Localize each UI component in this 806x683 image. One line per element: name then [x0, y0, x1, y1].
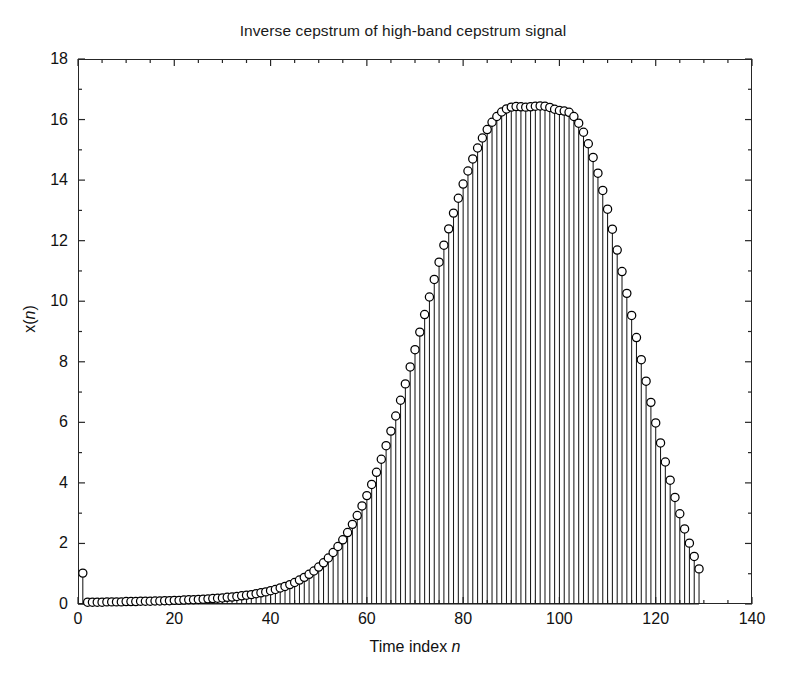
x-axis-label-text: Time index — [369, 638, 451, 655]
data-point-marker — [647, 398, 655, 406]
data-point-marker — [575, 119, 583, 127]
y-tick-label: 4 — [59, 474, 68, 492]
data-point-marker — [579, 128, 587, 136]
data-point-marker — [603, 205, 611, 213]
data-point-marker — [685, 539, 693, 547]
x-tick-label: 80 — [454, 610, 472, 628]
data-point-marker — [473, 144, 481, 152]
data-point-marker — [348, 520, 356, 528]
y-tick-label: 16 — [50, 111, 68, 129]
data-point-marker — [344, 528, 352, 536]
data-point-marker — [637, 356, 645, 364]
data-point-marker — [632, 333, 640, 341]
x-axis-label: Time index n — [78, 638, 752, 656]
x-tick-label: 0 — [74, 610, 83, 628]
data-point-marker — [435, 258, 443, 266]
x-tick-label: 40 — [262, 610, 280, 628]
data-point-marker — [666, 476, 674, 484]
y-tick-label: 0 — [59, 595, 68, 613]
x-axis-label-variable: n — [452, 638, 461, 655]
y-tick-label: 14 — [50, 171, 68, 189]
data-point-marker — [671, 493, 679, 501]
data-point-marker — [411, 346, 419, 354]
data-point-marker — [690, 552, 698, 560]
data-point-marker — [392, 412, 400, 420]
data-point-marker — [353, 511, 361, 519]
data-point-marker — [421, 310, 429, 318]
y-tick-label: 6 — [59, 413, 68, 431]
data-point-marker — [454, 194, 462, 202]
data-point-marker — [425, 293, 433, 301]
data-point-marker — [416, 328, 424, 336]
data-point-marker — [363, 492, 371, 500]
data-point-marker — [464, 167, 472, 175]
data-point-marker — [642, 377, 650, 385]
data-point-marker — [358, 502, 366, 510]
data-point-marker — [377, 455, 385, 463]
y-axis-label-variable: n — [21, 311, 38, 320]
y-tick-label: 2 — [59, 534, 68, 552]
data-point-marker — [584, 140, 592, 148]
x-tick-label: 20 — [165, 610, 183, 628]
data-point-marker — [478, 134, 486, 142]
data-point-marker — [368, 480, 376, 488]
data-point-marker — [623, 289, 631, 297]
stem-plot-svg — [78, 59, 752, 604]
data-point-marker — [339, 536, 347, 544]
x-axis-tick-labels: 020406080100120140 — [78, 610, 752, 634]
data-point-marker — [372, 468, 380, 476]
data-point-marker — [695, 565, 703, 573]
data-point-marker — [406, 363, 414, 371]
plot-axes-area — [78, 59, 752, 604]
y-axis-label-suffix: ) — [21, 305, 38, 310]
data-point-marker — [656, 439, 664, 447]
data-point-marker — [79, 569, 87, 577]
data-point-marker — [387, 427, 395, 435]
x-tick-label: 60 — [358, 610, 376, 628]
y-tick-label: 8 — [59, 353, 68, 371]
data-point-marker — [589, 153, 597, 161]
data-point-marker — [618, 267, 626, 275]
x-tick-label: 120 — [642, 610, 669, 628]
data-point-marker — [676, 510, 684, 518]
data-point-marker — [396, 396, 404, 404]
data-point-marker — [430, 275, 438, 283]
data-point-marker — [608, 225, 616, 233]
y-tick-label: 10 — [50, 292, 68, 310]
stem-lines-layer — [78, 106, 699, 604]
data-point-marker — [440, 241, 448, 249]
data-point-marker — [599, 186, 607, 194]
data-point-marker — [445, 225, 453, 233]
y-tick-label: 12 — [50, 232, 68, 250]
data-point-marker — [661, 458, 669, 466]
data-point-marker — [459, 180, 467, 188]
data-point-marker — [681, 525, 689, 533]
data-point-marker — [628, 311, 636, 319]
y-axis-label: x(n) — [21, 269, 39, 369]
data-point-marker — [483, 125, 491, 133]
data-point-marker — [594, 169, 602, 177]
y-tick-label: 18 — [50, 50, 68, 68]
data-point-marker — [382, 442, 390, 450]
data-point-marker — [401, 380, 409, 388]
figure-canvas: Inverse cepstrum of high-band cepstrum s… — [0, 0, 806, 683]
data-point-marker — [652, 419, 660, 427]
page-title: Inverse cepstrum of high-band cepstrum s… — [0, 22, 806, 40]
data-point-marker — [469, 155, 477, 163]
y-axis-label-prefix: x( — [21, 319, 38, 332]
x-tick-label: 100 — [546, 610, 573, 628]
data-point-marker — [449, 209, 457, 217]
x-tick-label: 140 — [739, 610, 766, 628]
data-point-marker — [613, 246, 621, 254]
